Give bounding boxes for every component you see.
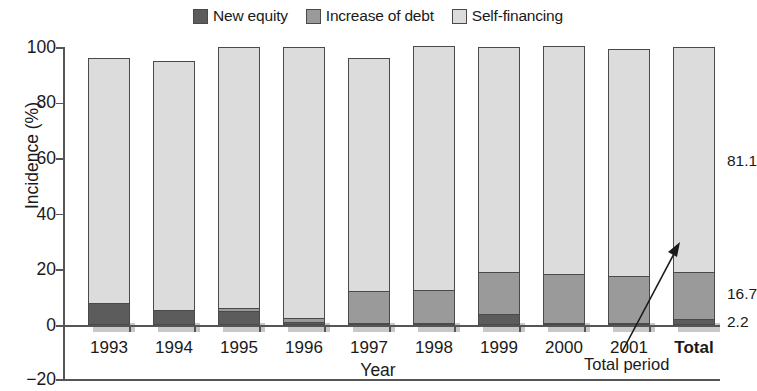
- legend-item-label: Self-financing: [472, 8, 563, 24]
- y-axis-line: [63, 47, 65, 381]
- x-axis-tick: [584, 325, 586, 332]
- bar-total[interactable]: [673, 47, 715, 325]
- bar-1993[interactable]: [88, 58, 130, 325]
- y-axis-tick: [56, 269, 63, 271]
- y-axis-title: Incidence (%): [22, 46, 43, 266]
- square-swatch-icon: [452, 9, 467, 24]
- x-tick-label-1995: 1995: [207, 338, 271, 358]
- bar-1997[interactable]: [348, 58, 390, 325]
- bar-1995[interactable]: [218, 47, 260, 325]
- bar-segment-new-equity[interactable]: [413, 323, 455, 325]
- bar-segment-new-equity[interactable]: [348, 323, 390, 325]
- bar-1994[interactable]: [153, 61, 195, 325]
- bar-segment-increase-of-debt[interactable]: [413, 290, 455, 323]
- x-axis-tick: [519, 325, 521, 332]
- square-swatch-icon: [193, 9, 208, 24]
- x-axis-tick: [649, 325, 651, 332]
- bar-segment-increase-of-debt[interactable]: [478, 272, 520, 314]
- bar-segment-self-financing[interactable]: [348, 58, 390, 292]
- x-axis-tick: [454, 325, 456, 332]
- x-axis-tick: [129, 325, 131, 332]
- bar-segment-self-financing[interactable]: [673, 47, 715, 272]
- x-axis-tick: [259, 325, 261, 332]
- x-tick-label-1998: 1998: [402, 338, 466, 358]
- legend-item-increase-of-debt: Increase of debt: [306, 8, 434, 24]
- square-swatch-icon: [306, 9, 321, 24]
- legend-item-label: New equity: [213, 8, 288, 24]
- bar-segment-increase-of-debt[interactable]: [348, 291, 390, 323]
- bar-1996[interactable]: [283, 47, 325, 325]
- x-tick-label-total: Total: [662, 338, 726, 358]
- bar-segment-self-financing[interactable]: [218, 47, 260, 308]
- bar-segment-self-financing[interactable]: [478, 47, 520, 272]
- y-axis-tick: [56, 103, 63, 105]
- bar-segment-new-equity[interactable]: [673, 319, 715, 325]
- bar-1998[interactable]: [413, 46, 455, 325]
- chart-legend: New equity Increase of debt Self-financi…: [0, 6, 756, 26]
- legend-item-self-financing: Self-financing: [452, 8, 563, 24]
- x-tick-label-1994: 1994: [142, 338, 206, 358]
- bar-2001[interactable]: [608, 49, 650, 325]
- bar-segment-self-financing[interactable]: [543, 46, 585, 274]
- bar-segment-increase-of-debt[interactable]: [673, 272, 715, 318]
- y-tick-label: 0: [46, 317, 56, 335]
- zero-baseline: [63, 325, 720, 327]
- bar-1999[interactable]: [478, 47, 520, 325]
- bar-2000[interactable]: [543, 46, 585, 325]
- x-axis-tick: [389, 325, 391, 332]
- plot-area: [63, 47, 720, 381]
- total-period-annotation: Total period: [584, 355, 669, 374]
- bar-segment-new-equity[interactable]: [543, 323, 585, 325]
- y-axis-tick: [56, 47, 63, 49]
- bar-segment-self-financing[interactable]: [153, 61, 195, 310]
- x-axis-tick: [324, 325, 326, 332]
- bar-segment-new-equity[interactable]: [478, 314, 520, 325]
- bar-segment-self-financing[interactable]: [88, 58, 130, 303]
- y-axis-tick: [56, 214, 63, 216]
- bar-segment-new-equity[interactable]: [608, 323, 650, 325]
- x-tick-label-1996: 1996: [272, 338, 336, 358]
- y-axis-tick: [56, 158, 63, 160]
- value-label-increase-of-debt: 16.7: [727, 285, 757, 303]
- x-tick-label-1999: 1999: [467, 338, 531, 358]
- bar-segment-self-financing[interactable]: [608, 49, 650, 276]
- bar-segment-new-equity[interactable]: [218, 311, 260, 325]
- bar-segment-increase-of-debt[interactable]: [543, 274, 585, 323]
- bar-segment-new-equity[interactable]: [283, 322, 325, 325]
- bar-segment-increase-of-debt[interactable]: [608, 276, 650, 323]
- x-tick-label-1993: 1993: [77, 338, 141, 358]
- bar-segment-new-equity[interactable]: [88, 303, 130, 325]
- value-label-self-financing: 81.1: [727, 152, 757, 170]
- value-label-new-equity: 2.2: [727, 313, 749, 331]
- bar-segment-self-financing[interactable]: [283, 47, 325, 318]
- bar-segment-self-financing[interactable]: [413, 46, 455, 289]
- y-axis-tick: [56, 325, 63, 327]
- x-tick-label-1997: 1997: [337, 338, 401, 358]
- legend-item-label: Increase of debt: [326, 8, 434, 24]
- legend-item-new-equity: New equity: [193, 8, 288, 24]
- bar-segment-new-equity[interactable]: [153, 310, 195, 325]
- x-axis-tick: [194, 325, 196, 332]
